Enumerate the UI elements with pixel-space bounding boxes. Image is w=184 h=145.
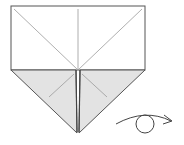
left-flap bbox=[11, 70, 77, 133]
turn-over-arc bbox=[116, 115, 171, 124]
turn-over-circle bbox=[136, 115, 154, 133]
right-flap bbox=[79, 70, 145, 133]
origami-diagram bbox=[0, 0, 184, 145]
turn-over-icon bbox=[116, 115, 172, 133]
